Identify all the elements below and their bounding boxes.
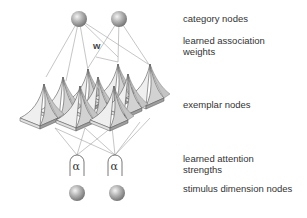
label-association-weights: learned association weights: [183, 36, 293, 57]
category-node-2: [111, 11, 127, 27]
stimulus-node-1: [69, 185, 85, 201]
category-nodes: [71, 11, 127, 27]
stimulus-nodes: [69, 185, 125, 201]
label-category-nodes: category nodes: [183, 14, 248, 25]
weight-symbol: w: [93, 40, 100, 51]
stimulus-node-2: [109, 185, 125, 201]
alpha-symbol-2: α: [111, 160, 119, 173]
label-stimulus-nodes: stimulus dimension nodes: [183, 184, 293, 195]
label-attention-strengths: learned attention strengths: [183, 154, 283, 175]
alpha-symbol-1: α: [73, 160, 81, 173]
label-exemplar-nodes: exemplar nodes: [183, 100, 251, 111]
category-node-1: [71, 11, 87, 27]
